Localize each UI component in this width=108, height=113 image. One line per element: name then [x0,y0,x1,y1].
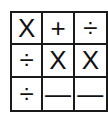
grid-cell-r2c2: X [43,45,74,77]
grid-cell-r3c2: — [43,78,74,110]
grid-cell-r3c1: ÷ [12,78,43,110]
symbol-grid: X + ÷ ÷ X X ÷ — — [10,11,108,112]
grid-cell-r1c1: X [12,13,43,45]
grid-cell-r2c1: ÷ [12,45,43,77]
grid-cell-r1c3: ÷ [75,13,106,45]
grid-cell-r1c2: + [43,13,74,45]
grid-cell-r2c3: X [75,45,106,77]
grid-cell-r3c3: — [75,78,106,110]
